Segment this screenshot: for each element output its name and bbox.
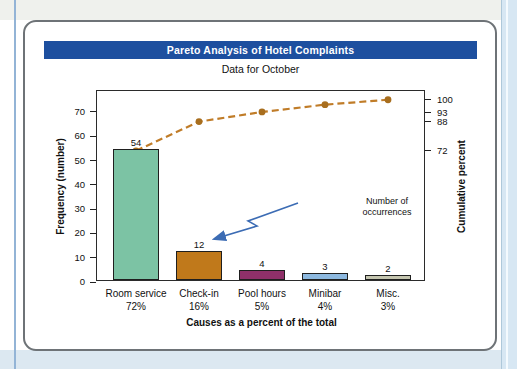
right-axis-tick-label: 100 — [437, 94, 467, 105]
left-axis-tick — [90, 233, 96, 234]
page-edge-strip — [501, 0, 517, 369]
left-axis-tick — [90, 257, 96, 258]
figure-subtitle: Data for October — [96, 63, 425, 75]
x-axis-title: Causes as a percent of the total — [97, 317, 426, 328]
left-axis-tick-label: 70 — [59, 106, 85, 117]
bar-value-label: 12 — [179, 239, 219, 250]
right-axis-tick-label: 72 — [437, 145, 467, 156]
left-axis-tick — [90, 184, 96, 185]
left-axis-tick-label: 40 — [59, 179, 85, 190]
page-margin-rule — [14, 0, 16, 369]
figure-title: Pareto Analysis of Hotel Complaints — [167, 44, 354, 56]
pareto-bar — [176, 251, 222, 280]
annotation-arrow — [214, 203, 298, 239]
cumulative-percent-line — [136, 100, 388, 151]
right-axis-tick — [425, 99, 431, 100]
bar-value-label: 54 — [116, 137, 156, 148]
annotation-line2: occurrences — [341, 207, 433, 218]
left-axis-tick-label: 20 — [59, 227, 85, 238]
left-axis-tick-label: 50 — [59, 155, 85, 166]
cumulative-point-marker — [322, 101, 329, 108]
plot-area: Number of occurrences Frequency (number)… — [96, 90, 425, 281]
pareto-bar — [239, 270, 285, 280]
left-axis-tick — [90, 160, 96, 161]
category-percent: 3% — [351, 301, 425, 314]
page-top-band — [0, 0, 517, 20]
bar-value-label: 4 — [242, 258, 282, 269]
right-axis-tick — [425, 150, 431, 151]
left-axis-tick — [90, 136, 96, 137]
left-axis-tick-label: 60 — [59, 130, 85, 141]
page-bottom-band — [0, 350, 517, 369]
category-name: Misc. — [351, 288, 425, 301]
left-axis-tick — [90, 209, 96, 210]
figure-frame: Pareto Analysis of Hotel Complaints Data… — [23, 20, 497, 351]
left-axis-tick-label: 30 — [59, 203, 85, 214]
left-axis-tick-label: 10 — [59, 252, 85, 263]
figure-title-bar: Pareto Analysis of Hotel Complaints — [44, 41, 477, 59]
cumulative-point-marker — [385, 96, 392, 103]
right-axis-tick-label: 93 — [437, 107, 467, 118]
bar-value-label: 2 — [368, 263, 408, 274]
cumulative-point-marker — [259, 109, 266, 116]
pareto-bar — [113, 149, 159, 280]
pareto-bar — [365, 275, 411, 280]
annotation-text: Number of occurrences — [341, 196, 433, 218]
left-axis-tick — [90, 111, 96, 112]
bar-value-label: 3 — [305, 261, 345, 272]
left-axis-tick — [90, 282, 96, 283]
annotation-line1: Number of — [341, 196, 433, 207]
category-label: Misc.3% — [351, 288, 425, 313]
cumulative-line-series — [133, 96, 392, 154]
page-edge-highlight — [506, 0, 508, 369]
left-axis-tick-label: 0 — [59, 276, 85, 287]
right-axis-tick — [425, 121, 431, 122]
pareto-bar — [302, 273, 348, 280]
right-axis-tick — [425, 112, 431, 113]
cumulative-point-marker — [196, 118, 203, 125]
